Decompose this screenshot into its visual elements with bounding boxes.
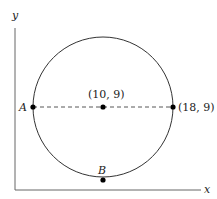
circle-diagram: y x A (10, 9) (18, 9) B [0,0,217,199]
x-axis-label: x [204,183,211,196]
label-a: A [18,101,27,114]
y-axis-label: y [11,9,19,22]
label-b: B [97,164,106,177]
point-a [30,104,35,109]
point-b [100,177,105,182]
label-center: (10, 9) [88,88,125,101]
point-center [100,104,105,109]
label-right-point: (18, 9) [178,101,215,114]
point-right [170,104,175,109]
